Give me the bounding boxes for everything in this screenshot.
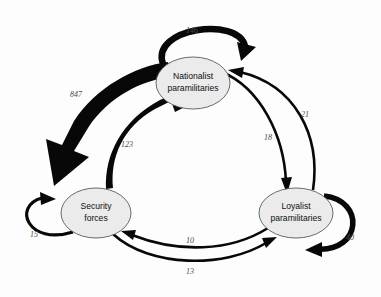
- node-security[interactable]: Security forces: [61, 188, 131, 238]
- edge-40-arrowhead: [305, 242, 322, 257]
- node-nationalist[interactable]: Nationalist paramilitaries: [156, 57, 230, 109]
- edge-10-label: 10: [186, 236, 194, 245]
- edge-13-arrowhead: [262, 237, 277, 248]
- edge-15-label: 15: [30, 230, 38, 239]
- flow-diagram: 847 123 146 18 21 10: [0, 0, 381, 297]
- edge-15-arrowhead: [40, 192, 56, 205]
- node-loyalist-label-line2: paramilitaries: [270, 213, 321, 223]
- edge-10-arrowhead: [121, 230, 136, 240]
- edge-40-label: 40: [346, 233, 354, 242]
- edge-21-label: 21: [301, 110, 309, 119]
- edge-loyalist-to-nationalist: 21: [228, 67, 314, 190]
- edge-10-arc: [132, 228, 268, 247]
- edge-security-to-loyalist: 13: [113, 234, 277, 276]
- edge-123-label: 123: [121, 140, 133, 149]
- node-security-label-line1: Security: [80, 201, 112, 211]
- diagram-canvas: 847 123 146 18 21 10: [0, 0, 381, 297]
- node-loyalist[interactable]: Loyalist paramilitaries: [259, 188, 333, 238]
- node-nationalist-label-line2: paramilitaries: [167, 83, 218, 93]
- edge-loyalist-to-security: 10: [121, 228, 268, 247]
- node-loyalist-label-line1: Loyalist: [281, 201, 311, 211]
- edge-146-arrowhead: [237, 42, 256, 61]
- edge-146-label: 146: [186, 26, 198, 35]
- edge-18-label: 18: [264, 133, 272, 142]
- node-nationalist-label-line1: Nationalist: [173, 71, 214, 81]
- edge-13-label: 13: [186, 267, 194, 276]
- edge-nationalist-self-loop: 146: [162, 26, 256, 64]
- edge-nationalist-to-loyalist: 18: [222, 72, 292, 194]
- edge-21-arc: [240, 72, 314, 190]
- node-security-label-line2: forces: [84, 213, 107, 223]
- edge-847-label: 847: [70, 90, 83, 99]
